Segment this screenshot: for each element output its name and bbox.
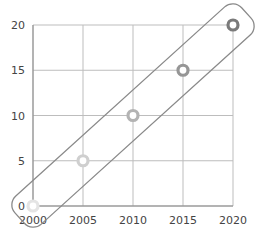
data-point-marker [78,156,88,166]
x-tick-label: 2000 [19,214,47,227]
x-tick-label: 2005 [69,214,97,227]
y-tick-label: 10 [11,110,25,123]
scatter-chart: 05101520 20002005201020152020 [0,0,263,237]
y-axis-ticks: 05101520 [11,19,25,213]
data-point-marker [128,111,138,121]
x-tick-label: 2015 [169,214,197,227]
x-tick-label: 2020 [219,214,247,227]
y-tick-label: 5 [18,155,25,168]
y-tick-label: 15 [11,64,25,77]
data-point-marker [228,20,238,30]
data-point-marker [178,65,188,75]
x-tick-label: 2010 [119,214,147,227]
data-point-marker [28,201,38,211]
y-tick-label: 20 [11,19,25,32]
y-tick-label: 0 [18,200,25,213]
x-axis-ticks: 20002005201020152020 [19,214,247,227]
